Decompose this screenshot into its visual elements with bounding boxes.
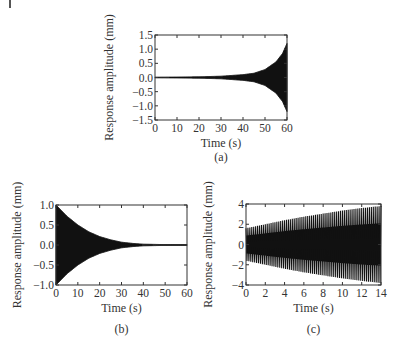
x-tick-label: 10 — [72, 287, 84, 299]
x-tick-label: 10 — [171, 122, 183, 134]
x-tick-label: 8 — [320, 287, 326, 299]
x-tick-label: 14 — [375, 287, 387, 299]
y-tick-label: 1.0 — [40, 199, 55, 211]
x-tick-label: 40 — [237, 122, 249, 134]
panel-caption: (a) — [214, 150, 227, 164]
y-tick-label: 1.5 — [139, 29, 154, 41]
y-axis-label: Response amplitude (mm) — [102, 14, 116, 141]
x-tick-label: 40 — [138, 287, 150, 299]
y-tick-label: 0.0 — [40, 239, 55, 251]
y-tick-label: −4 — [232, 279, 244, 291]
chart-panel-1: 0102030405060−1.5−1.0−0.50.00.51.01.5Tim… — [102, 14, 293, 164]
x-tick-label: 0 — [243, 287, 249, 299]
y-tick-label: 2 — [238, 218, 244, 230]
x-tick-label: 50 — [159, 287, 171, 299]
x-tick-label: 2 — [262, 287, 268, 299]
y-tick-label: 1.0 — [139, 43, 154, 55]
x-axis-label: Time (s) — [201, 136, 242, 150]
x-tick-label: 50 — [259, 122, 271, 134]
figure: 0102030405060−1.5−1.0−0.50.00.51.01.5Tim… — [0, 0, 401, 350]
x-tick-label: 20 — [193, 122, 205, 134]
y-tick-label: −1.5 — [132, 114, 153, 126]
x-tick-label: 12 — [356, 287, 368, 299]
x-tick-label: 6 — [301, 287, 307, 299]
x-tick-label: 0 — [53, 287, 59, 299]
panel-caption: (c) — [307, 322, 320, 336]
y-tick-label: 0.5 — [139, 57, 154, 69]
y-tick-label: 4 — [238, 198, 244, 210]
x-tick-label: 4 — [282, 287, 288, 299]
x-tick-label: 10 — [337, 287, 349, 299]
x-axis-label: Time (s) — [101, 301, 142, 315]
y-tick-label: −2 — [232, 259, 244, 271]
y-tick-label: −0.5 — [132, 86, 153, 98]
chart-panel-2: 0102030405060−1.0−0.50.00.51.0Time (s)Re… — [10, 182, 193, 336]
y-axis-label: Response amplitude (mm) — [201, 181, 215, 308]
signal-envelope-fill — [56, 205, 187, 285]
y-tick-label: −0.5 — [33, 259, 54, 271]
y-tick-label: 0.0 — [139, 72, 154, 84]
x-tick-label: 30 — [116, 287, 128, 299]
y-tick-label: 0 — [238, 239, 244, 251]
x-tick-label: 20 — [94, 287, 106, 299]
signal-envelope-fill — [155, 44, 287, 112]
y-tick-label: −1.0 — [33, 279, 54, 291]
y-tick-label: 0.5 — [40, 219, 55, 231]
chart-panel-3: 02468101214−4−2024Time (s)Response ampli… — [201, 181, 387, 336]
y-tick-label: −1.0 — [132, 100, 153, 112]
x-tick-label: 30 — [215, 122, 227, 134]
panel-caption: (b) — [115, 322, 129, 336]
x-tick-label: 0 — [152, 122, 158, 134]
x-axis-label: Time (s) — [293, 301, 334, 315]
signal-trace — [246, 206, 381, 283]
x-tick-label: 60 — [181, 287, 193, 299]
x-tick-label: 60 — [281, 122, 293, 134]
y-axis-label: Response amplitude (mm) — [10, 182, 24, 309]
